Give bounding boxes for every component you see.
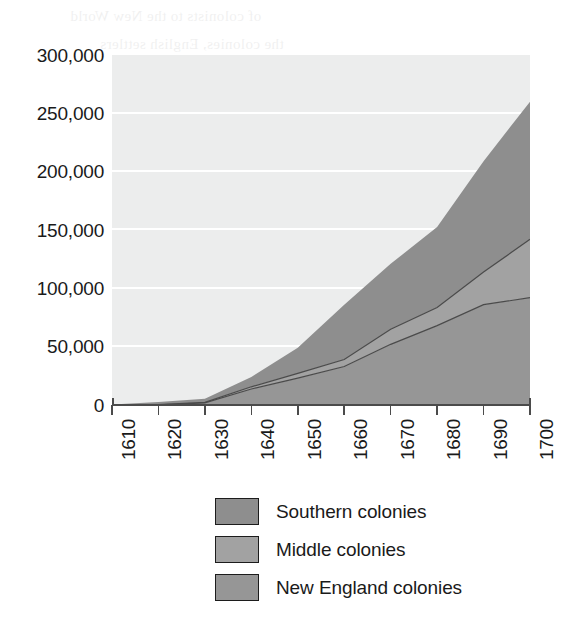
x-tick-mark — [251, 405, 253, 415]
legend-swatch-middle — [215, 536, 259, 563]
x-tick-label: 1630 — [212, 419, 231, 460]
x-tick-label: 1650 — [305, 419, 324, 460]
legend-label-middle: Middle colonies — [276, 540, 405, 559]
y-tick-label: 100,000 — [4, 279, 104, 298]
population-growth-area-chart: 300,000 250,000 200,000 150,000 100,000 … — [0, 0, 574, 624]
y-tick-label: 200,000 — [4, 162, 104, 181]
stacked-area-series — [112, 55, 530, 405]
x-tick-label: 1660 — [351, 419, 370, 460]
x-tick-mark — [529, 405, 531, 415]
x-tick-label: 1700 — [537, 419, 556, 460]
legend-swatch-new-england — [215, 574, 259, 601]
x-tick-label: 1640 — [258, 419, 277, 460]
x-tick-mark — [390, 405, 392, 415]
x-tick-label: 1690 — [491, 419, 510, 460]
legend-item-southern-colonies[interactable]: Southern colonies — [215, 492, 515, 530]
y-tick-label: 250,000 — [4, 104, 104, 123]
x-tick-mark — [436, 405, 438, 415]
legend-item-middle-colonies[interactable]: Middle colonies — [215, 530, 515, 568]
x-tick-mark — [483, 405, 485, 415]
x-axis: 1610162016301640165016601670168016901700 — [0, 405, 574, 475]
x-tick-mark — [343, 405, 345, 415]
x-tick-label: 1670 — [398, 419, 417, 460]
y-tick-label: 300,000 — [4, 46, 104, 65]
x-tick-mark — [111, 405, 113, 415]
x-tick-mark — [158, 405, 160, 415]
y-axis: 300,000 250,000 200,000 150,000 100,000 … — [0, 0, 104, 624]
legend-swatch-southern — [215, 498, 259, 525]
x-tick-mark — [204, 405, 206, 415]
legend-label-new-england: New England colonies — [276, 578, 462, 597]
y-tick-label: 50,000 — [4, 337, 104, 356]
legend-label-southern: Southern colonies — [276, 502, 426, 521]
x-tick-label: 1680 — [444, 419, 463, 460]
plot-area — [112, 55, 530, 405]
x-tick-label: 1610 — [119, 419, 138, 460]
y-tick-label: 150,000 — [4, 221, 104, 240]
x-tick-mark — [297, 405, 299, 415]
legend-item-new-england-colonies[interactable]: New England colonies — [215, 568, 515, 606]
x-tick-label: 1620 — [165, 419, 184, 460]
chart-legend: Southern colonies Middle colonies New En… — [215, 492, 515, 606]
